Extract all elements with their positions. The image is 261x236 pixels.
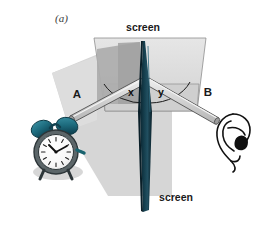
- physics-figure-sound-reflection: (a) screen screen A B x y: [0, 0, 261, 236]
- tube-a-label: A: [73, 88, 81, 100]
- ear-canal: [235, 136, 247, 149]
- ear-tragus-crease: [228, 127, 245, 135]
- ear-detector: [217, 114, 250, 172]
- screen-label-bottom: screen: [159, 191, 193, 203]
- alarm-clock: [29, 115, 84, 180]
- ear-inner-helix: [223, 121, 234, 151]
- ear-lobe: [231, 156, 240, 162]
- angle-x-label: x: [128, 86, 134, 98]
- panel-label: (a): [55, 12, 68, 25]
- tube-b-label: B: [204, 86, 212, 98]
- angle-y-label: y: [158, 86, 164, 98]
- clock-center-pin: [54, 150, 57, 153]
- screen-label-top: screen: [126, 21, 160, 33]
- figure-canvas: (a) screen screen A B x y: [0, 0, 261, 236]
